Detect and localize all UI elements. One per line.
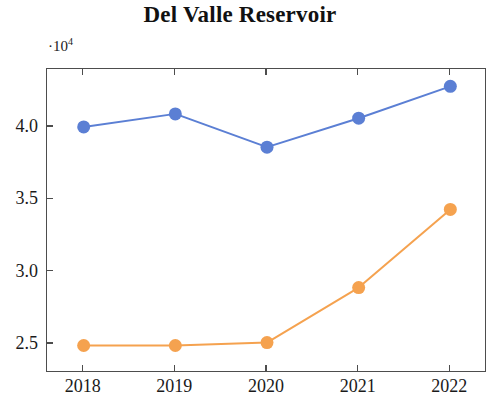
series-line-1 bbox=[84, 86, 451, 147]
x-tick-mark bbox=[265, 365, 266, 372]
x-tick-mark bbox=[82, 365, 83, 372]
chart-title: Del Valle Reservoir bbox=[0, 2, 480, 28]
y-axis-multiplier-base: ·10 bbox=[48, 38, 68, 54]
data-point[interactable] bbox=[77, 120, 90, 133]
y-tick-label: 4.0 bbox=[16, 115, 39, 136]
data-point[interactable] bbox=[169, 107, 182, 120]
x-tick-mark bbox=[357, 365, 358, 372]
series-line-2 bbox=[84, 209, 451, 345]
y-tick-label: 3.0 bbox=[16, 260, 39, 281]
plot-area bbox=[46, 68, 486, 372]
x-tick-mark bbox=[449, 365, 450, 372]
data-point[interactable] bbox=[352, 281, 365, 294]
y-axis-multiplier-exponent: 4 bbox=[68, 36, 73, 47]
x-tick-label: 2022 bbox=[431, 376, 467, 397]
y-tick-label: 2.5 bbox=[16, 333, 39, 354]
data-point[interactable] bbox=[444, 80, 457, 93]
x-tick-mark-top bbox=[174, 68, 175, 75]
x-tick-mark-top bbox=[82, 68, 83, 75]
x-tick-label: 2018 bbox=[65, 376, 101, 397]
data-point[interactable] bbox=[261, 141, 274, 154]
x-tick-mark-top bbox=[357, 68, 358, 75]
data-point[interactable] bbox=[352, 112, 365, 125]
data-point[interactable] bbox=[169, 339, 182, 352]
y-tick-label: 3.5 bbox=[16, 188, 39, 209]
y-tick-mark bbox=[46, 125, 53, 126]
y-tick-mark bbox=[46, 342, 53, 343]
data-point[interactable] bbox=[444, 203, 457, 216]
x-tick-label: 2019 bbox=[156, 376, 192, 397]
x-tick-label: 2021 bbox=[340, 376, 376, 397]
x-tick-mark bbox=[174, 365, 175, 372]
y-tick-mark bbox=[46, 270, 53, 271]
x-tick-label: 2020 bbox=[248, 376, 284, 397]
y-tick-mark bbox=[46, 198, 53, 199]
y-axis-multiplier-label: ·104 bbox=[48, 38, 73, 55]
plot-canvas bbox=[47, 69, 487, 373]
x-tick-mark-top bbox=[449, 68, 450, 75]
data-point[interactable] bbox=[261, 336, 274, 349]
data-point[interactable] bbox=[77, 339, 90, 352]
x-tick-mark-top bbox=[265, 68, 266, 75]
